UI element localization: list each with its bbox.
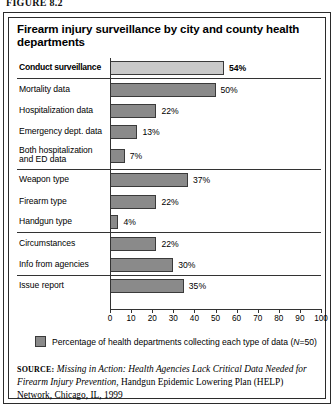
x-axis-tick xyxy=(194,309,195,313)
bar-value-label: 22% xyxy=(161,106,178,116)
bar xyxy=(110,279,184,293)
bar-row: Firearm type22% xyxy=(17,191,321,212)
source-note: SOURCE: Missing in Action: Health Agenci… xyxy=(17,363,317,401)
x-axis-tick xyxy=(131,309,132,313)
bar-row: Mortality data50% xyxy=(17,79,321,100)
bar-category-label: Circumstances xyxy=(19,239,107,249)
bar-category-label: Hospitalization data xyxy=(19,106,107,116)
bar-and-value: 37% xyxy=(110,173,210,187)
x-axis-tick xyxy=(300,309,301,313)
bar xyxy=(110,215,118,229)
figure-inner-frame: Firearm injury surveillance by city and … xyxy=(8,17,326,399)
bar-value-label: 22% xyxy=(161,239,178,249)
bar xyxy=(110,125,137,139)
bar xyxy=(110,237,156,251)
legend-n-symbol: N xyxy=(293,337,299,347)
bar-row: Handgun type4% xyxy=(17,212,321,233)
bar-and-value: 22% xyxy=(110,104,179,118)
bar-rows: Conduct surveillance54%Mortality data50%… xyxy=(17,58,321,297)
y-axis-line xyxy=(110,58,111,310)
x-axis-tick-label: 80 xyxy=(274,314,283,323)
bar-row: Both hospitalization and ED data7% xyxy=(17,143,321,170)
x-axis-tick-label: 10 xyxy=(127,314,136,323)
bar-and-value: 50% xyxy=(110,83,238,97)
x-axis-tick xyxy=(216,309,217,313)
bar-row: Hospitalization data22% xyxy=(17,100,321,121)
bar-row: Emergency dept. data13% xyxy=(17,122,321,143)
bar xyxy=(110,149,125,163)
figure-outer-frame: Firearm injury surveillance by city and … xyxy=(3,12,331,404)
x-axis-tick-label: 70 xyxy=(253,314,262,323)
x-axis-tick-label: 100 xyxy=(314,314,328,323)
x-axis-tick xyxy=(258,309,259,313)
bar-category-label: Emergency dept. data xyxy=(19,127,107,137)
bar-category-label: Weapon type xyxy=(19,176,107,186)
x-axis-tick-label: 60 xyxy=(232,314,241,323)
legend-label: Percentage of health departments collect… xyxy=(52,337,317,347)
bar-category-label: Info from agencies xyxy=(19,260,107,270)
bar-value-label: 30% xyxy=(178,260,195,270)
figure-label: FIGURE 8.2 xyxy=(6,0,63,8)
bar-value-label: 35% xyxy=(189,281,206,291)
bar-and-value: 54% xyxy=(110,61,246,75)
bar-and-value: 13% xyxy=(110,125,160,139)
x-axis-tick-label: 30 xyxy=(169,314,178,323)
x-axis-tick-label: 90 xyxy=(295,314,304,323)
x-axis-tick-label: 0 xyxy=(108,314,113,323)
bar-value-label: 37% xyxy=(193,175,210,185)
bar-and-value: 22% xyxy=(110,237,179,251)
x-axis-tick xyxy=(279,309,280,313)
x-axis-tick-label: 40 xyxy=(190,314,199,323)
bar-value-label: 50% xyxy=(221,85,238,95)
bar-value-label: 7% xyxy=(130,151,142,161)
bar-and-value: 7% xyxy=(110,149,142,163)
bar-row: Weapon type37% xyxy=(17,170,321,191)
bar-category-label: Conduct surveillance xyxy=(19,63,107,73)
bar xyxy=(110,195,156,209)
bar-category-label: Firearm type xyxy=(19,197,107,207)
bar-and-value: 35% xyxy=(110,279,206,293)
bar-value-label: 54% xyxy=(229,63,246,73)
bar xyxy=(110,173,188,187)
bar-row: Issue report35% xyxy=(17,276,321,297)
bar xyxy=(110,258,173,272)
bar-value-label: 22% xyxy=(161,197,178,207)
bar-category-label: Handgun type xyxy=(19,217,107,227)
bar-and-value: 4% xyxy=(110,215,136,229)
x-axis-tick xyxy=(173,309,174,313)
bar-category-label: Both hospitalization and ED data xyxy=(19,146,107,165)
bar-row: Conduct surveillance54% xyxy=(17,58,321,79)
bar-and-value: 22% xyxy=(110,195,179,209)
x-axis-tick-label: 20 xyxy=(148,314,157,323)
bar xyxy=(110,83,216,97)
bar-row: Circumstances22% xyxy=(17,233,321,254)
bar-and-value: 30% xyxy=(110,258,196,272)
x-axis-tick-label: 50 xyxy=(211,314,220,323)
bar xyxy=(110,61,224,75)
chart-title: Firearm injury surveillance by city and … xyxy=(17,23,317,48)
bar-row: Info from agencies30% xyxy=(17,255,321,276)
bar-value-label: 4% xyxy=(123,217,135,227)
x-axis-tick xyxy=(321,309,322,313)
chart-plot-area: Conduct surveillance54%Mortality data50%… xyxy=(17,58,321,317)
source-label: SOURCE: xyxy=(17,365,54,374)
bar xyxy=(110,104,156,118)
bar-value-label: 13% xyxy=(142,127,159,137)
bar-category-label: Issue report xyxy=(19,281,107,291)
bar-category-label: Mortality data xyxy=(19,85,107,95)
x-axis-tick xyxy=(152,309,153,313)
legend-swatch xyxy=(35,336,46,347)
x-axis-tick xyxy=(237,309,238,313)
chart-legend: Percentage of health departments collect… xyxy=(35,336,317,347)
x-axis-tick xyxy=(110,309,111,313)
